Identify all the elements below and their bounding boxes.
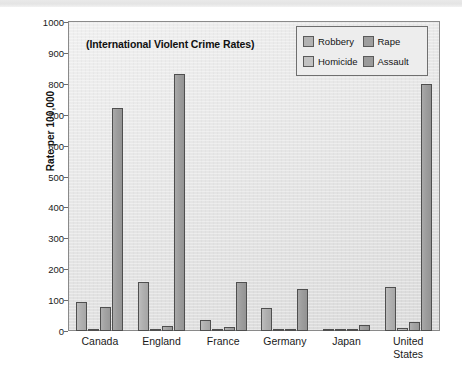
x-axis-category-labels: CanadaEnglandFranceGermanyJapanUnitedSta… <box>69 335 439 379</box>
x-axis-label-united-states: UnitedStates <box>368 335 448 361</box>
chart-legend: Robbery Rape Homicide Assault <box>296 26 428 76</box>
legend-swatch-rape-icon <box>363 36 374 47</box>
x-axis-label-line: States <box>368 348 448 361</box>
legend-label-rape: Rape <box>378 36 401 47</box>
bar-rape-united-states <box>409 322 420 331</box>
bar-robbery-england <box>138 282 149 331</box>
y-axis-tickmark-600 <box>64 146 68 147</box>
bar-homicide-united-states <box>397 328 408 331</box>
y-axis-tickmark-700 <box>64 115 68 116</box>
bar-robbery-japan <box>323 329 334 331</box>
bar-homicide-canada <box>88 329 99 331</box>
x-axis-label-line: England <box>142 335 181 347</box>
legend-label-assault: Assault <box>378 56 409 67</box>
y-axis-tickmark-300 <box>64 238 68 239</box>
bar-robbery-germany <box>261 308 272 331</box>
legend-row-top: Robbery Rape <box>303 31 422 51</box>
x-axis-label-line: United <box>393 335 423 347</box>
legend-row-bottom: Homicide Assault <box>303 51 422 71</box>
bar-homicide-germany <box>273 329 284 331</box>
bar-assault-france <box>236 282 247 331</box>
bar-rape-canada <box>100 307 111 331</box>
bar-rape-germany <box>285 329 296 331</box>
legend-item-assault: Assault <box>363 56 423 67</box>
bar-assault-england <box>174 74 185 331</box>
legend-item-rape: Rape <box>363 36 423 47</box>
y-axis-tickmark-400 <box>64 207 68 208</box>
bar-homicide-france <box>212 329 223 331</box>
x-axis-label-line: Canada <box>81 335 118 347</box>
bar-rape-japan <box>347 329 358 331</box>
y-axis-tickmark-100 <box>64 300 68 301</box>
chart-figure: (International Violent Crime Rates) Rate… <box>0 0 462 383</box>
bar-robbery-france <box>200 320 211 331</box>
bar-assault-japan <box>359 325 370 331</box>
y-axis-tickmark-1000 <box>64 22 68 23</box>
bar-homicide-japan <box>335 329 346 331</box>
legend-item-homicide: Homicide <box>303 56 363 67</box>
x-axis-label-line: Japan <box>332 335 361 347</box>
bar-robbery-canada <box>76 302 87 331</box>
legend-swatch-homicide-icon <box>303 56 314 67</box>
bar-robbery-united-states <box>385 287 396 331</box>
y-axis-tickmark-200 <box>64 269 68 270</box>
bar-assault-canada <box>112 108 123 331</box>
legend-swatch-assault-icon <box>363 56 374 67</box>
bar-rape-england <box>162 326 173 331</box>
y-axis-tickmark-500 <box>64 177 68 178</box>
y-axis-tick-marks <box>0 21 70 331</box>
x-axis-label-line: France <box>207 335 240 347</box>
x-axis-label-line: Germany <box>263 335 306 347</box>
y-axis-tickmark-0 <box>64 331 68 332</box>
bar-assault-germany <box>297 289 308 331</box>
bar-homicide-england <box>150 329 161 331</box>
legend-swatch-robbery-icon <box>303 36 314 47</box>
legend-item-robbery: Robbery <box>303 36 363 47</box>
y-axis-tickmark-800 <box>64 84 68 85</box>
y-axis-tickmark-900 <box>64 53 68 54</box>
bar-assault-united-states <box>421 84 432 332</box>
legend-label-robbery: Robbery <box>318 36 354 47</box>
bar-rape-france <box>224 327 235 331</box>
legend-label-homicide: Homicide <box>318 56 358 67</box>
